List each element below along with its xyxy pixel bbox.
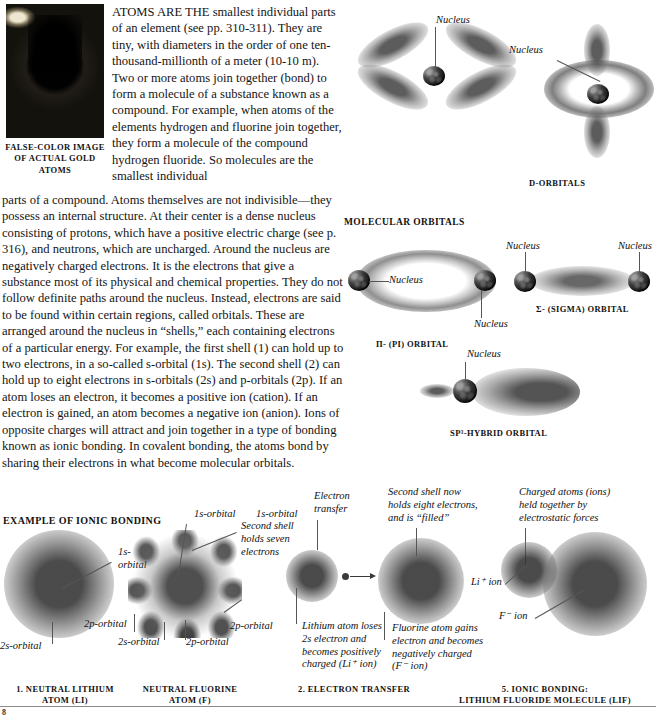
d-orbital-ring-nucleus [587,84,609,104]
pi-orbital-nucleus-left-label: Nucleus [389,274,423,287]
d-orbital-cloverleaf-leader [435,27,436,69]
step-5-caption: 5. IONIC BONDING: LITHIUM FLUORIDE MOLEC… [436,684,654,707]
sigma-orbital-group: Nucleus Nucleus Σ- (SIGMA) ORBITAL [508,240,656,330]
sigma-orbital-right-leader [639,252,640,272]
gold-atoms-dark-core [28,15,83,74]
d-orbitals-group: Nucleus Nucleus D-ORBITALS [344,2,656,214]
sp3-orbital-leader [465,362,466,382]
sigma-orbital-label: Σ- (SIGMA) ORBITAL [536,304,629,315]
d-orbital-lobe-lower-left [352,55,435,118]
electron-transfer-leader [317,520,318,550]
step-2-caption-line1: 2. ELECTRON TRANSFER [284,684,424,695]
step-1-caption: 1. NEUTRAL LITHIUM ATOM (Li) [2,684,128,707]
intro-paragraph-full: parts of a compound. Atoms themselves ar… [2,192,344,471]
d-orbital-ring-nucleus-label: Nucleus [509,44,543,57]
gold-photo-caption: FALSE-COLOR IMAGE OF ACTUAL GOLD ATOMS [2,142,108,176]
molecular-orbitals-heading: MOLECULAR ORBITALS [344,216,465,229]
fluorine-2p-right-label: 2p-orbital [230,620,273,633]
electron-transfer-label: Electron transfer [314,490,364,516]
sigma-orbital-nucleus-right-label: Nucleus [618,240,652,253]
lithium-atom-note: Lithium atom loses 2s electron and becom… [302,620,388,671]
pi-orbital-group: Nucleus Nucleus π- (PI) ORBITAL [344,240,514,340]
pi-orbital-nucleus-right [474,270,496,291]
page-number: 8 [2,708,6,717]
sigma-orbital-nucleus-left [514,271,536,292]
fluorine-2s-label: 2s-orbital [118,636,159,649]
sigma-orbital-cloud [530,266,634,296]
fluorine-2p-left-leader [134,614,135,632]
neutral-fluorine-atom-figure: 1s-orbital Second shell holds seven elec… [118,508,298,650]
intro-paragraph-column: ATOMS ARE THE smallest individual parts … [112,4,344,184]
second-shell-filled-leader [416,528,417,556]
step-2-caption: 2. ELECTRON TRANSFER [284,684,424,695]
sigma-orbital-nucleus-left-label: Nucleus [506,240,540,253]
lithium-2s-leader [52,622,53,644]
sigma-orbital-nucleus-right [628,271,650,292]
pi-orbital-nucleus-right-label: Nucleus [474,318,508,331]
gold-atoms-photo [6,4,104,138]
sp3-orbital-nucleus [453,379,477,403]
lithium-2s-orbital-label: 2s-orbital [0,640,41,653]
step-5-caption-line1: 5. IONIC BONDING: [436,684,654,695]
lif-fluoride-ion-cloud [543,532,647,636]
li-ion-label: Li⁺ ion [471,576,502,589]
pi-orbital-nucleus-left [348,270,370,291]
step-fluorine-caption: NEUTRAL FLUORINE ATOM (F) [120,684,260,707]
transferred-electron-dot [342,573,349,580]
footer-divider [0,706,656,707]
pi-orbital-right-leader [481,290,482,318]
ionic-bonding-lif-figure: Charged atoms (ions) held together by el… [455,488,655,658]
sp3-small-lobe [420,384,454,398]
gold-caption-line3: ATOMS [2,165,108,176]
fluorine-2p-mid-label: 2p-orbital [186,636,229,649]
electron-transfer-arrowhead [370,573,376,579]
fluorine-1s-left-label: 1s-orbital [194,508,235,521]
d-orbital-axial-lobe-top [584,24,610,76]
electron-transfer-figure: Electron transfer Lithium atom loses 2s … [280,488,470,658]
gold-caption-line2: OF ACTUAL GOLD [2,153,108,164]
fluorine-2p-left-label: 2p-orbital [84,618,127,631]
d-orbital-cloverleaf-nucleus [423,66,445,86]
step-fluorine-caption-line1: NEUTRAL FLUORINE [120,684,260,695]
d-orbital-lobe-lower-right [440,55,523,118]
charged-atoms-label: Charged atoms (ions) held together by el… [519,486,619,524]
pi-orbital-left-leader [369,281,389,282]
gold-caption-line1: FALSE-COLOR IMAGE [2,142,108,153]
fluoride-ion-cloud [378,538,464,624]
sp3-orbital-label: SP³-HYBRID ORBITAL [450,428,547,439]
d-orbital-axial-lobe-bottom [584,106,610,158]
fluorine-atom-note-leader [384,612,385,640]
d-orbitals-section-label: D-ORBITALS [529,178,585,189]
sp3-hybrid-orbital-group: Nucleus SP³-HYBRID ORBITAL [420,348,620,448]
fluorine-2s-leader [164,622,165,640]
lithium-ion-cloud [286,550,338,602]
lithium-atom-note-leader [296,588,297,624]
sp3-large-lobe [472,368,580,416]
d-orbital-cloverleaf-nucleus-label: Nucleus [436,14,470,27]
electron-transfer-arrow [350,576,372,577]
encyclopedia-page: FALSE-COLOR IMAGE OF ACTUAL GOLD ATOMS A… [0,0,656,728]
step-1-caption-line1: 1. NEUTRAL LITHIUM [2,684,128,695]
f-ion-label: F⁻ ion [499,610,527,623]
sp3-orbital-nucleus-label: Nucleus [467,348,501,361]
sigma-orbital-left-leader [525,252,526,272]
